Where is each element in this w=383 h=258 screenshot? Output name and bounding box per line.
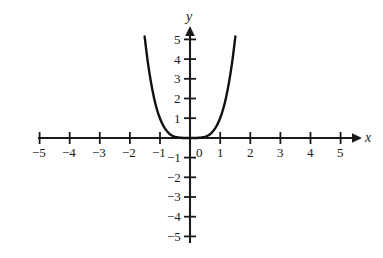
y-tick-label-4: 4: [174, 53, 181, 66]
x-tick-label-5: 5: [337, 146, 344, 159]
cartesian-plot: [0, 0, 383, 258]
x-tick-label-minus5: −5: [32, 146, 46, 159]
x-tick-label-minus1: −1: [152, 146, 166, 159]
x-tick-label-1: 1: [217, 146, 224, 159]
x-tick-label-minus4: −4: [62, 146, 76, 159]
y-axis-label: y: [186, 10, 192, 24]
y-tick-label-minus5: −5: [167, 230, 181, 243]
y-tick-label-5: 5: [174, 33, 181, 46]
x-tick-label-4: 4: [307, 146, 314, 159]
x-tick-label-minus2: −2: [122, 146, 136, 159]
x-axis-arrow-icon: [352, 133, 362, 143]
y-tick-label-2: 2: [174, 92, 181, 105]
y-tick-label-minus3: −3: [167, 190, 181, 203]
y-tick-label-3: 3: [174, 72, 181, 85]
y-axis-arrow-icon: [185, 26, 195, 36]
x-tick-label-minus3: −3: [92, 146, 106, 159]
graph-figure: −5 −4 −3 −2 −1 1 2 3 4 5 5 4 3 2 1 −1 −2…: [0, 0, 383, 258]
origin-label: 0: [196, 146, 203, 159]
y-tick-label-minus1: −1: [167, 151, 181, 164]
y-tick-label-minus4: −4: [167, 210, 181, 223]
y-tick-label-1: 1: [174, 112, 181, 125]
x-tick-label-3: 3: [277, 146, 284, 159]
x-axis-label: x: [365, 131, 371, 145]
x-tick-label-2: 2: [247, 146, 254, 159]
y-tick-label-minus2: −2: [167, 171, 181, 184]
